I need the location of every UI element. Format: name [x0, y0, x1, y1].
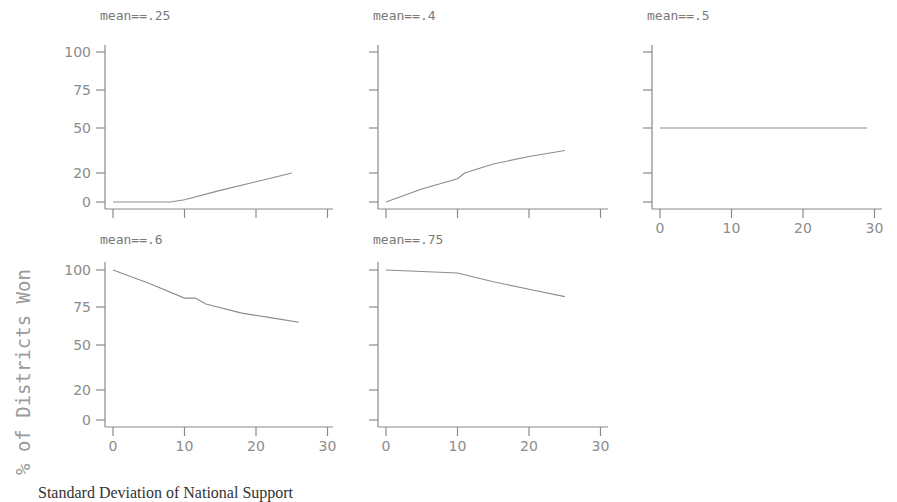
- panel-1: mean==.250205075100: [64, 8, 333, 218]
- x-tick-label: 30: [319, 438, 337, 454]
- x-tick-label: 10: [449, 438, 467, 454]
- x-tick-label: 0: [109, 438, 118, 454]
- panel-5: mean==.750102030: [369, 232, 609, 454]
- series-line: [113, 270, 299, 322]
- y-tick-label: 50: [73, 120, 91, 136]
- panel-title: mean==.5: [647, 8, 710, 23]
- panel-3: mean==.50102030: [643, 8, 883, 236]
- series-line: [113, 173, 292, 202]
- y-tick-label: 100: [64, 262, 91, 278]
- panel-title: mean==.4: [373, 8, 436, 23]
- x-tick-label: 20: [794, 220, 812, 236]
- x-axis-label: Standard Deviation of National Support: [38, 484, 293, 502]
- y-tick-label: 0: [82, 194, 91, 210]
- y-tick-label: 75: [73, 82, 91, 98]
- x-tick-label: 20: [520, 438, 538, 454]
- x-tick-label: 0: [382, 438, 391, 454]
- panel-title: mean==.6: [100, 232, 163, 247]
- x-tick-label: 10: [176, 438, 194, 454]
- y-tick-label: 0: [82, 412, 91, 428]
- x-tick-label: 30: [866, 220, 884, 236]
- x-tick-label: 10: [723, 220, 741, 236]
- panel-title: mean==.75: [373, 232, 443, 247]
- y-tick-label: 100: [64, 44, 91, 60]
- series-line: [386, 270, 565, 297]
- y-tick-label: 20: [73, 382, 91, 398]
- y-tick-label: 50: [73, 337, 91, 353]
- x-tick-label: 20: [247, 438, 265, 454]
- x-tick-label: 0: [656, 220, 665, 236]
- y-axis-label: % of Districts Won: [12, 269, 34, 475]
- x-tick-label: 30: [592, 438, 610, 454]
- panel-2: mean==.4: [369, 8, 608, 218]
- y-tick-label: 75: [73, 299, 91, 315]
- y-tick-label: 20: [73, 165, 91, 181]
- series-line: [386, 151, 565, 203]
- panel-title: mean==.25: [100, 8, 170, 23]
- panel-4: mean==.602050751000102030: [64, 232, 336, 454]
